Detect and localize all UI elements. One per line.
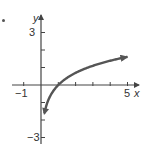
curve: [42, 57, 127, 115]
x-axis-label: x: [134, 88, 140, 99]
x-tick-label-max: 5: [124, 88, 130, 99]
y-axis-label: y: [33, 13, 39, 24]
function-graph: [0, 0, 143, 148]
y-tick-label-min: −3: [27, 132, 40, 143]
x-tick-label-min: −1: [15, 88, 28, 99]
y-tick-label-max: 3: [29, 27, 35, 38]
